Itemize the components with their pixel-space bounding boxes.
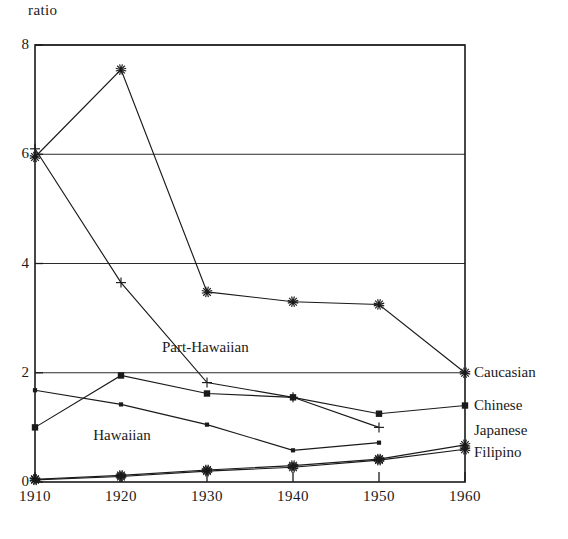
x-tick-label-1960: 1960	[435, 488, 495, 505]
datapoint-chinese-2	[204, 390, 210, 396]
series-line-caucasian	[35, 70, 465, 373]
datapoint-chinese-5	[462, 402, 468, 408]
y-tick-label-4: 4	[7, 255, 29, 272]
datapoint-chinese-1	[118, 372, 124, 378]
datapoint-hawaiian-1	[119, 402, 123, 406]
datapoint-hawaiian-0	[33, 388, 37, 392]
chart-container: ratio 02468 191019201930194019501960 Cau…	[0, 0, 568, 539]
datapoint-chinese-4	[376, 411, 382, 417]
y-tick-label-8: 8	[7, 36, 29, 53]
y-tick-label-6: 6	[7, 145, 29, 162]
annotation-hawaiian: Hawaiian	[93, 427, 150, 444]
legend-label-filipino: Filipino	[474, 444, 522, 461]
series-line-hawaiian	[35, 390, 379, 450]
legend-label-japanese: Japanese	[474, 422, 527, 439]
datapoint-chinese-0	[32, 424, 38, 430]
datapoint-hawaiian-4	[377, 441, 381, 445]
annotation-part-hawaiian: Part-Hawaiian	[162, 339, 249, 356]
datapoint-hawaiian-2	[205, 423, 209, 427]
x-tick-label-1930: 1930	[177, 488, 237, 505]
series-line-filipino	[35, 449, 465, 480]
x-tick-label-1910: 1910	[5, 488, 65, 505]
datapoint-hawaiian-3	[291, 448, 295, 452]
x-tick-label-1950: 1950	[349, 488, 409, 505]
x-tick-label-1940: 1940	[263, 488, 323, 505]
series-line-japanese	[35, 445, 465, 479]
legend-label-caucasian: Caucasian	[474, 364, 536, 381]
legend-label-chinese: Chinese	[474, 397, 522, 414]
y-tick-label-2: 2	[7, 364, 29, 381]
x-tick-label-1920: 1920	[91, 488, 151, 505]
